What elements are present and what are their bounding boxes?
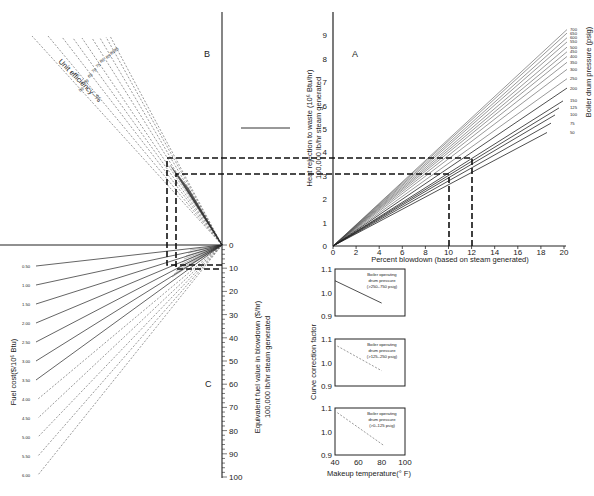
fuel-cost-label: 1.00 [22, 283, 31, 288]
chart-a-y-axis-title: Heat rejection to waste (10⁶ Btu/hr) [305, 69, 314, 186]
chart-b-efficiency-lines [32, 36, 222, 245]
fuel-cost-label: 0.50 [22, 264, 31, 269]
y-tick-label: 9 [323, 31, 328, 40]
c-tick-label: 100 [229, 473, 243, 482]
correction-y-tick-label: 1.1 [321, 404, 333, 413]
chart-c-fuel-cost-lines [36, 245, 222, 475]
pressure-label: 200 [570, 86, 578, 91]
efficiency-label: 80 [99, 57, 106, 64]
pressure-line [333, 52, 567, 246]
fuel-cost-label: 6.00 [22, 473, 31, 478]
fuel-cost-label: 4.50 [22, 416, 31, 421]
y-tick-label: 7 [323, 78, 328, 87]
correction-factor-axis-title: Curve correction factor [309, 324, 318, 400]
correction-x-tick-label: 80 [377, 458, 386, 467]
pressure-line [333, 33, 567, 246]
fuel-cost-line [38, 245, 222, 418]
efficiency-line [82, 38, 222, 245]
pressure-line [333, 56, 567, 246]
pressure-line [333, 115, 555, 246]
fuel-cost-line [38, 245, 222, 475]
y-tick-label: 5 [323, 125, 328, 134]
y-tick-label: 6 [323, 102, 328, 111]
fuel-cost-title: Fuel cost($/10⁶ Btu) [9, 338, 18, 405]
pressure-line [333, 62, 567, 246]
correction-x-tick-label: 40 [331, 458, 340, 467]
chart-a-series-labels: 7006506005505004504003503002502001501251… [570, 27, 578, 135]
x-tick-label: 18 [536, 248, 545, 257]
fuel-cost-label: 3.50 [22, 378, 31, 383]
chart-c-ticks: 0102030405060708090100 [222, 241, 243, 482]
c-tick-label: 50 [229, 357, 238, 366]
efficiency-fan-line [188, 188, 222, 246]
x-tick-label: 2 [354, 248, 359, 257]
c-tick-label: 70 [229, 403, 238, 412]
c-tick-label: 90 [229, 450, 238, 459]
correction-subplot-label: (>0–125 psig) [369, 423, 395, 428]
pressure-label: 50 [570, 130, 575, 135]
fuel-cost-line [36, 245, 222, 361]
efficiency-line [32, 36, 222, 245]
correction-subplot-label: drum pressure [369, 417, 397, 422]
correction-y-tick-label: 0.9 [321, 382, 333, 391]
fuel-cost-label: 5.00 [22, 435, 31, 440]
pressure-label: 400 [570, 54, 578, 59]
y-tick-label: 1 [323, 219, 328, 228]
c-tick-label: 80 [229, 427, 238, 436]
efficiency-label: 95 [113, 46, 120, 53]
x-tick-label: 0 [331, 248, 336, 257]
pressure-line [333, 123, 551, 246]
c-tick-label: 10 [229, 264, 238, 273]
correction-subplot-label: drum pressure [369, 348, 397, 353]
c-tick-label: 30 [229, 311, 238, 320]
pressure-line [333, 79, 567, 246]
correction-subplot-label: Boiler operating [367, 342, 397, 347]
correction-y-tick-label: 1.0 [321, 289, 333, 298]
panel-label-b: B [204, 49, 210, 59]
pressure-line [333, 42, 567, 246]
correction-subplot-label: drum pressure [369, 278, 397, 283]
c-tick-label: 60 [229, 380, 238, 389]
correction-y-tick-label: 1.1 [321, 265, 333, 274]
c-tick-label: 40 [229, 334, 238, 343]
fuel-cost-label: 2.50 [22, 340, 31, 345]
fuel-cost-line [38, 245, 222, 437]
efficiency-line [62, 37, 222, 245]
correction-x-tick-label: 100 [398, 458, 412, 467]
pressure-label: 125 [570, 105, 578, 110]
pressure-label: 250 [570, 76, 578, 81]
fuel-fan-line [176, 245, 222, 271]
efficiency-line [106, 37, 222, 245]
pressure-label: 300 [570, 67, 578, 72]
pressure-label: 100 [570, 112, 578, 117]
makeup-temperature-axis-title: Makeup temperature(° F) [327, 469, 411, 478]
y-tick-label: 3 [323, 172, 328, 181]
pressure-line [333, 133, 547, 246]
pressure-line [333, 38, 567, 246]
correction-factor-subplots: 0.91.01.1Boiler operatingdrum pressure(>… [321, 265, 412, 467]
correction-y-tick-label: 1.0 [321, 428, 333, 437]
panel-label-c: C [205, 379, 212, 389]
y-tick-label: 2 [323, 195, 328, 204]
fuel-fan-line [180, 245, 222, 265]
chart-a-x-axis-title: Percent blowdown (based on steam generat… [371, 255, 529, 264]
correction-x-tick-label: 60 [354, 458, 363, 467]
correction-y-tick-label: 1.1 [321, 335, 333, 344]
boiler-drum-pressure-title: Boiler drum pressure (psig) [584, 26, 593, 117]
chart-c-series-labels: 0.501.001.502.002.503.003.504.004.505.00… [22, 264, 31, 478]
fuel-cost-label: 3.00 [22, 359, 31, 364]
fuel-cost-line [38, 245, 222, 399]
pressure-label: 350 [570, 60, 578, 65]
fuel-cost-label: 2.00 [22, 321, 31, 326]
correction-y-tick-label: 1.0 [321, 359, 333, 368]
fuel-cost-label: 5.50 [22, 454, 31, 459]
fuel-cost-label: 1.50 [22, 302, 31, 307]
chart-a-y-axis-subtitle: 100,000 lb/hr steam generated [314, 77, 323, 179]
pressure-line [333, 88, 567, 246]
fuel-cost-label: 4.00 [22, 397, 31, 402]
fuel-cost-line [38, 245, 222, 456]
pressure-label: 150 [570, 98, 578, 103]
y-tick-label: 4 [323, 148, 328, 157]
c-tick-label: 20 [229, 287, 238, 296]
pressure-line [333, 47, 567, 246]
